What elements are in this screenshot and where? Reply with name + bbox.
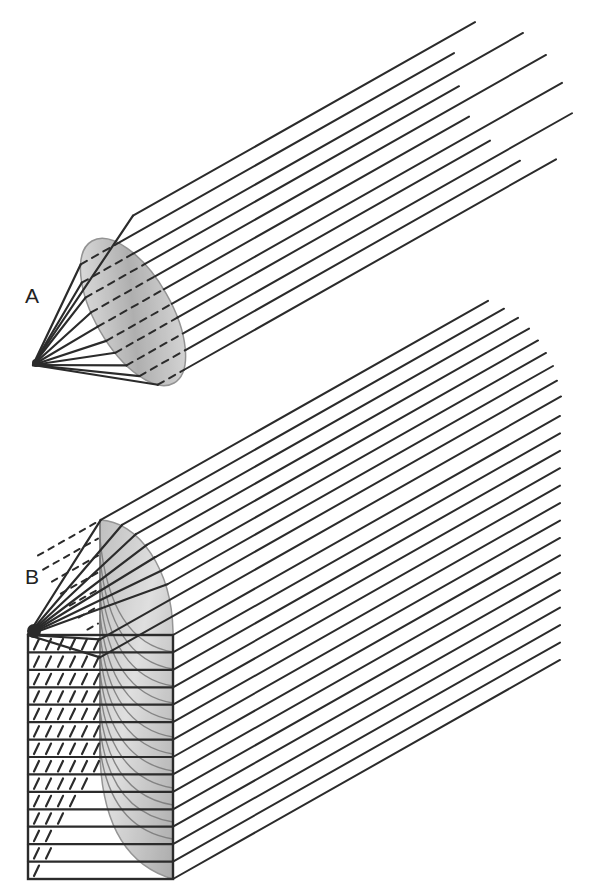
hatch-dash xyxy=(70,726,75,736)
hatch-dash xyxy=(46,744,51,754)
hatch-dash xyxy=(94,639,99,649)
hatch-dash xyxy=(82,778,87,788)
hatch-dash xyxy=(58,813,63,823)
hatch-dash xyxy=(34,639,39,649)
hatch-dash xyxy=(58,691,63,701)
parallel-ray-segment xyxy=(173,538,560,757)
hatch-dash xyxy=(34,778,39,788)
hatch-dash xyxy=(46,796,51,806)
hatch-dash xyxy=(34,674,39,684)
parallel-ray-segment xyxy=(173,521,560,740)
parallel-ray-segment xyxy=(136,318,518,534)
hatch-dash xyxy=(34,744,39,754)
hidden-ray-segment xyxy=(43,539,98,570)
hatch-dash xyxy=(82,639,87,649)
hatch-dash xyxy=(58,796,63,806)
hidden-ray-segment xyxy=(87,624,98,630)
hatch-dash xyxy=(82,674,87,684)
hatch-dash xyxy=(70,674,75,684)
panel-b-point-source-quarter-disc-rows xyxy=(27,301,561,879)
hatch-dash xyxy=(58,656,63,666)
parallel-ray-segment xyxy=(133,22,475,216)
hatch-dash xyxy=(46,709,51,719)
parallel-ray-segment xyxy=(100,396,561,657)
hatch-dash xyxy=(58,726,63,736)
parallel-ray-segment xyxy=(173,660,560,879)
hatch-dash xyxy=(46,761,51,771)
hatch-dash xyxy=(46,691,51,701)
parallel-ray-segment xyxy=(147,329,529,545)
parallel-ray-segment xyxy=(145,86,459,264)
hatch-dash xyxy=(58,674,63,684)
hatch-dash xyxy=(34,761,39,771)
parallel-ray-segment xyxy=(134,33,523,253)
hatch-dash xyxy=(34,813,39,823)
parallel-ray-segment xyxy=(164,117,469,290)
hatch-dash xyxy=(46,778,51,788)
hatch-dash xyxy=(82,709,87,719)
hatch-dash xyxy=(82,761,87,771)
parallel-ray-segment xyxy=(173,643,560,862)
hatch-dash xyxy=(82,744,87,754)
parallel-ray-segment xyxy=(173,590,560,809)
hatch-dash xyxy=(34,691,39,701)
parallel-ray-segment xyxy=(173,451,560,670)
hatch-dash xyxy=(58,778,63,788)
diagram-canvas xyxy=(0,0,594,893)
hatch-dash xyxy=(70,744,75,754)
parallel-ray-segment xyxy=(173,416,560,635)
hatch-dash xyxy=(94,726,99,736)
hatch-dash xyxy=(46,656,51,666)
hatch-dash xyxy=(34,709,39,719)
hatch-dash xyxy=(46,674,51,684)
hatch-dash xyxy=(82,726,87,736)
hatch-dash xyxy=(34,831,39,841)
fan-ray-b xyxy=(28,301,488,635)
hatch-dash xyxy=(82,691,87,701)
panel-b-label: B xyxy=(25,566,39,587)
fan-ray-segment xyxy=(33,283,82,365)
hatch-dash xyxy=(70,796,75,806)
panel-a-point-source-disc xyxy=(32,22,572,402)
hatch-dash xyxy=(94,691,99,701)
hatch-dash xyxy=(94,744,99,754)
hatch-dash xyxy=(46,813,51,823)
parallel-ray-segment xyxy=(178,141,490,318)
hatch-dash xyxy=(46,848,51,858)
hatch-dash xyxy=(34,848,39,858)
hatch-dash xyxy=(34,726,39,736)
hatch-dash xyxy=(34,796,39,806)
parallel-ray-segment xyxy=(173,573,560,792)
hatch-dash xyxy=(58,709,63,719)
hatch-dash xyxy=(58,744,63,754)
parallel-ray-segment xyxy=(173,625,560,844)
parallel-ray-segment xyxy=(155,340,538,557)
parallel-ray-segment xyxy=(173,433,560,652)
parallel-ray-segment xyxy=(155,55,546,276)
figure: A B xyxy=(0,0,594,893)
hatch-dash xyxy=(34,656,39,666)
hatch-dash xyxy=(94,761,99,771)
parallel-ray-segment xyxy=(167,366,553,584)
panel-a-label: A xyxy=(25,285,39,306)
parallel-ray-segment xyxy=(162,353,546,570)
parallel-ray-segment xyxy=(173,555,560,774)
apex-b xyxy=(27,624,41,638)
hatch-dash xyxy=(94,709,99,719)
parallel-ray-segment xyxy=(183,113,572,333)
hatch-dash xyxy=(70,691,75,701)
hatch-dash xyxy=(82,656,87,666)
hatch-dash xyxy=(70,761,75,771)
parallel-ray-segment xyxy=(173,468,560,687)
hatch-dash xyxy=(34,866,39,876)
hatch-dash xyxy=(58,761,63,771)
hatch-dash xyxy=(70,778,75,788)
hatch-dash xyxy=(46,726,51,736)
parallel-ray-segment xyxy=(173,486,560,705)
hatch-dash xyxy=(94,674,99,684)
parallel-ray-segment xyxy=(119,53,455,243)
hatch-dash xyxy=(70,709,75,719)
parallel-ray-segment xyxy=(186,161,521,350)
apex-a xyxy=(32,359,40,367)
hatch-dash xyxy=(70,656,75,666)
